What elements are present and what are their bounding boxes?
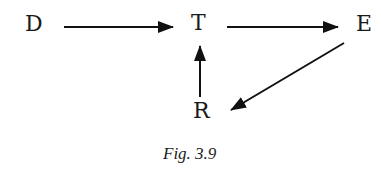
edge-e-r-arrow <box>231 43 344 110</box>
figure-caption: Fig. 3.9 <box>163 144 216 164</box>
